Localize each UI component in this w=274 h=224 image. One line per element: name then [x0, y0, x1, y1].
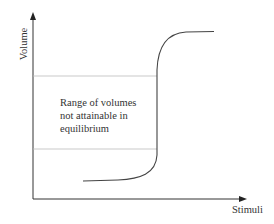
unattainable-range-annotation: Range of volumes not attainable in equil… [60, 96, 160, 135]
annotation-line-3: equilibrium [60, 122, 160, 135]
annotation-line-1: Range of volumes [60, 96, 160, 109]
annotation-line-2: not attainable in [60, 109, 160, 122]
x-axis-arrow-icon [239, 196, 247, 202]
y-axis-arrow-icon [30, 12, 36, 20]
x-axis-label: Stimuli [232, 204, 263, 216]
y-axis-label: Volume [18, 24, 30, 64]
